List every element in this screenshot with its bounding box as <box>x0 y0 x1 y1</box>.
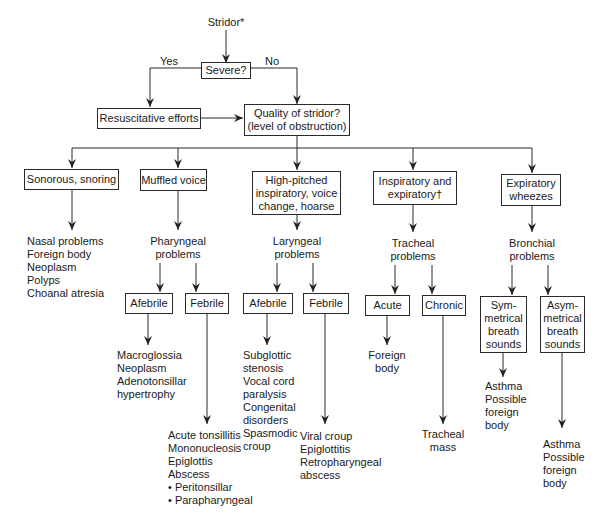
pharyngeal-afebrile-outcomes: Macroglossia Neoplasm Adenotonsillar hyp… <box>117 349 187 401</box>
pharyngeal-febrile-outcomes: Acute tonsillitis Mononucleosis Epiglott… <box>168 429 253 507</box>
bronchial-asymmetrical-outcomes: Asthma Possible foreign body <box>543 438 585 490</box>
pharyngeal-afebrile-box: Afebrile <box>125 293 173 314</box>
laryngeal-afebrile-outcomes: Subglottic stenosis Vocal cord paralysis… <box>243 349 297 453</box>
stridor-flowchart: Stridor* Yes No Severe? Resuscitative ef… <box>0 0 604 516</box>
quality-of-stridor-box: Quality of stridor? (level of obstructio… <box>244 104 350 136</box>
pharyngeal-febrile-box: Febrile <box>185 293 229 314</box>
severe-decision-box: Severe? <box>201 62 251 79</box>
category-expiratory-wheezes: Expiratory wheezes <box>501 174 561 206</box>
resuscitative-efforts-box: Resuscitative efforts <box>97 108 201 129</box>
bronchial-problems-label: Bronchial problems <box>492 237 572 263</box>
laryngeal-problems-label: Laryngeal problems <box>257 235 337 261</box>
no-label: No <box>265 55 279 68</box>
pharyngeal-problems-label: Pharyngeal problems <box>138 235 218 261</box>
root-label-stridor: Stridor* <box>196 16 256 29</box>
bronchial-asymmetrical-box: Asym- metrical breath sounds <box>540 296 585 353</box>
laryngeal-febrile-box: Febrile <box>303 293 349 314</box>
laryngeal-afebrile-box: Afebrile <box>243 293 293 314</box>
yes-label: Yes <box>160 55 178 68</box>
category-inspiratory-expiratory: Inspiratory and expiratory† <box>373 171 457 205</box>
tracheal-chronic-box: Chronic <box>422 295 466 316</box>
category-sonorous-snoring: Sonorous, snoring <box>24 169 119 190</box>
tracheal-acute-outcomes: Foreign body <box>362 349 412 375</box>
category-muffled-voice: Muffled voice <box>140 169 207 191</box>
laryngeal-febrile-outcomes: Viral croup Epiglottitis Retropharyngeal… <box>300 430 381 482</box>
tracheal-chronic-outcomes: Tracheal mass <box>418 428 468 454</box>
bronchial-symmetrical-outcomes: Asthma Possible foreign body <box>485 380 527 432</box>
tracheal-problems-label: Tracheal problems <box>373 237 453 263</box>
sonorous-outcomes: Nasal problems Foreign body Neoplasm Pol… <box>27 235 104 300</box>
bronchial-symmetrical-box: Sym- metrical breath sounds <box>480 296 527 353</box>
tracheal-acute-box: Acute <box>365 295 410 316</box>
category-high-pitched: High-pitched inspiratory, voice change, … <box>252 171 341 215</box>
